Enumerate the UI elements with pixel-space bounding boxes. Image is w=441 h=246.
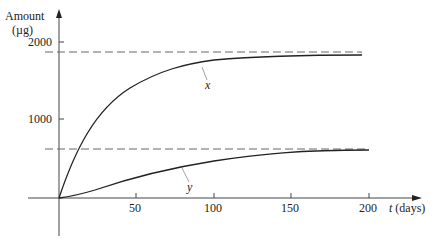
- chart-figure: Amount (µg) 2000 1000 50 100 150 200 t (…: [0, 0, 441, 246]
- curve-y: [59, 150, 369, 198]
- y-axis-label-line1: Amount: [5, 10, 44, 22]
- x-tick-label-150: 150: [281, 202, 299, 214]
- x-tick-label-50: 50: [129, 202, 141, 214]
- y-tick-label-2000: 2000: [28, 36, 52, 48]
- curve-x: [59, 55, 362, 198]
- curve-label-x: x: [205, 79, 210, 91]
- x-axis-var: t: [389, 201, 392, 215]
- x-axis-label: t (days): [389, 202, 425, 214]
- curve-label-y: y: [187, 181, 192, 193]
- y-tick-label-1000: 1000: [28, 113, 52, 125]
- y-axis-arrow-icon: [56, 9, 62, 18]
- x-axis-unit: (days): [395, 201, 425, 215]
- x-tick-label-100: 100: [204, 202, 222, 214]
- x-tick-label-200: 200: [359, 202, 377, 214]
